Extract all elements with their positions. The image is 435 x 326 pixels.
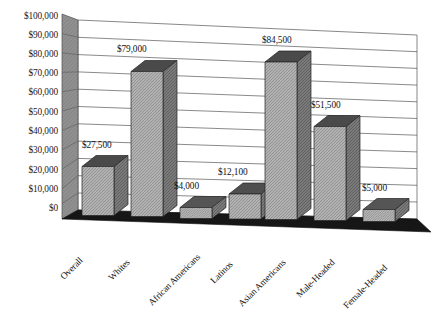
y-axis-labels: $100,000 $90,000 $80,000 $70,000 $60,000…	[0, 0, 58, 326]
bar-whites[interactable]	[131, 61, 177, 217]
data-label-female-headed: $5,000	[362, 183, 387, 193]
y-tick-70000: $70,000	[0, 68, 58, 78]
left-wall	[62, 14, 78, 219]
y-tick-90000: $90,000	[0, 30, 58, 40]
y-tick-60000: $60,000	[0, 87, 58, 97]
y-tick-0: $0	[0, 203, 58, 213]
y-tick-10000: $10,000	[0, 184, 58, 194]
data-label-male-headed: $51,500	[311, 100, 341, 110]
data-label-african-americans: $4,000	[174, 181, 199, 191]
y-tick-20000: $20,000	[0, 165, 58, 175]
y-tick-100000: $100,000	[0, 11, 58, 21]
chart-container: $100,000 $90,000 $80,000 $70,000 $60,000…	[0, 0, 435, 326]
y-tick-40000: $40,000	[0, 126, 58, 136]
bar-male-headed[interactable]	[314, 116, 360, 221]
bar-overall[interactable]	[82, 156, 128, 216]
bar-asian-americans[interactable]	[265, 51, 311, 220]
data-label-asian-americans: $84,500	[262, 35, 292, 45]
y-tick-80000: $80,000	[0, 49, 58, 59]
y-tick-50000: $50,000	[0, 107, 58, 117]
y-tick-30000: $30,000	[0, 145, 58, 155]
data-label-whites: $79,000	[117, 44, 147, 54]
data-label-overall: $27,500	[82, 140, 112, 150]
data-label-latinos: $12,100	[218, 167, 248, 177]
